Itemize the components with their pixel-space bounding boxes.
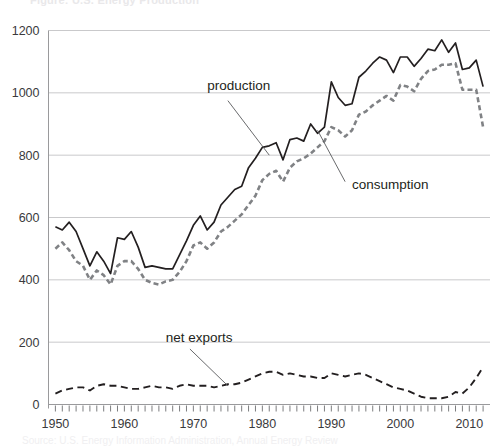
- x-tick-labels: 1950196019701980199020002010: [41, 417, 483, 431]
- y-tick-label-0: 0: [33, 398, 40, 412]
- x-tick-label-1970: 1970: [179, 417, 207, 431]
- series-line-production: [55, 40, 483, 274]
- x-tick-label-1950: 1950: [41, 417, 69, 431]
- y-tick-label-1200: 1200: [12, 24, 40, 38]
- leader-line-net-exports: [190, 349, 228, 386]
- series-annotation-labels: productionconsumptionnet exports: [166, 78, 429, 345]
- x-tick-label-1990: 1990: [317, 417, 345, 431]
- data-series-group: [55, 40, 483, 398]
- y-tick-label-1000: 1000: [12, 86, 40, 100]
- label-consumption: consumption: [352, 177, 429, 192]
- figure-title-cutoff: Figure: U.S. Energy Production: [30, 0, 199, 6]
- x-tick-label-2010: 2010: [455, 417, 483, 431]
- leader-line-consumption: [318, 130, 346, 181]
- series-line-net-exports: [55, 367, 483, 398]
- label-production: production: [207, 78, 270, 93]
- y-tick-label-400: 400: [19, 273, 40, 287]
- label-net-exports: net exports: [166, 330, 233, 345]
- figure-caption-cutoff: Source: U.S. Energy Information Administ…: [22, 435, 338, 446]
- x-tick-label-1960: 1960: [110, 417, 138, 431]
- y-tick-labels: 020040060080010001200: [12, 24, 40, 412]
- x-tick-label-2000: 2000: [386, 417, 414, 431]
- y-tick-label-200: 200: [19, 336, 40, 350]
- y-tick-label-600: 600: [19, 211, 40, 225]
- leader-line-production: [228, 101, 269, 156]
- x-minor-ticks: [55, 406, 483, 412]
- series-line-consumption: [55, 63, 483, 284]
- x-tick-label-1980: 1980: [248, 417, 276, 431]
- y-tick-label-800: 800: [19, 149, 40, 163]
